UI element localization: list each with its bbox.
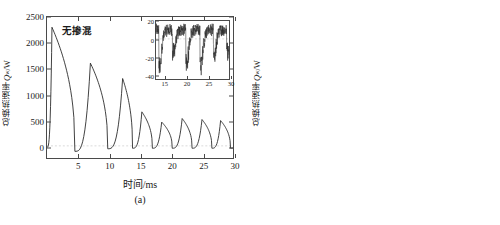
x-axis-label-a: 时间/ms — [46, 176, 234, 191]
inset-a-y-mark-m20 — [156, 57, 159, 58]
inset-a-y-tick-0: -40 — [145, 73, 154, 80]
x-tick-mark-a-3 — [172, 154, 173, 158]
y-tick-mark-a-3 — [47, 69, 51, 70]
inset-a-y-tick-1: -20 — [145, 54, 154, 61]
x-tick-mark-a-5 — [235, 154, 236, 158]
x-tick-a-1: 10 — [105, 161, 114, 171]
x-tick-a-0: 5 — [76, 161, 81, 171]
y-axis-label-b-unit: /W — [252, 60, 262, 70]
y-tick-a-4: 2000 — [26, 38, 44, 48]
inset-plot-a: 20 0 -20 -40 15 20 25 30 — [155, 20, 230, 80]
x-tick-mark-a-0-t — [78, 17, 79, 21]
y-tick-mark-a-2-r — [229, 95, 233, 96]
x-tick-mark-a-5-t — [235, 17, 236, 21]
y-tick-mark-a-5-r — [229, 17, 233, 18]
x-tick-mark-a-1 — [110, 154, 111, 158]
y-tick-mark-a-1 — [47, 121, 51, 122]
x-tick-mark-a-1-t — [110, 17, 111, 21]
inset-a-y-tick-2: 0 — [151, 36, 154, 43]
y-axis-label-b-text: 总换热速率 — [252, 81, 262, 126]
y-axis-label-a: 总换热速率Qw/W — [2, 38, 16, 148]
inset-a-y-tick-3: 20 — [148, 18, 155, 25]
y-tick-mark-a-1-r — [229, 121, 233, 122]
x-tick-a-5: 30 — [231, 161, 240, 171]
y-axis-label-a-symbol: Q — [2, 75, 12, 81]
y-tick-mark-a-5 — [47, 17, 51, 18]
inset-a-x-tick-1: 20 — [184, 80, 191, 87]
y-tick-mark-a-0 — [47, 147, 51, 148]
panel-caption-a: (a) — [46, 194, 234, 205]
y-axis-label-a-unit: /W — [2, 60, 12, 70]
inset-a-y-mark-20 — [156, 21, 159, 22]
y-tick-a-1: 500 — [31, 117, 45, 127]
y-tick-a-2: 1000 — [26, 91, 44, 101]
panel-a: 总换热速率Qw/W 0 500 1000 1500 2000 — [0, 0, 250, 225]
inset-a-x-tick-3: 30 — [228, 80, 235, 87]
inset-a-x-mark-15 — [165, 76, 166, 79]
panel-b: 总换热速率Qw/W 0 500 1000 1500 2000 — [250, 0, 500, 225]
inset-a-x-tick-2: 25 — [206, 80, 213, 87]
x-tick-a-4: 25 — [199, 161, 208, 171]
x-tick-a-3: 20 — [168, 161, 177, 171]
y-tick-mark-a-0-r — [229, 147, 233, 148]
inset-a-x-mark-25 — [209, 76, 210, 79]
y-axis-label-a-text: 总换热速率 — [2, 81, 12, 126]
x-tick-a-2: 15 — [137, 161, 146, 171]
y-axis-label-b-symbol: Q — [252, 75, 262, 81]
y-tick-mark-a-4 — [47, 43, 51, 44]
y-tick-mark-a-2 — [47, 95, 51, 96]
x-tick-mark-a-2-t — [141, 17, 142, 21]
inset-a-x-mark-30 — [231, 76, 232, 79]
y-tick-a-0: 0 — [40, 143, 45, 153]
y-axis-label-b: 总换热速率Qw/W — [252, 38, 266, 148]
y-tick-a-3: 1500 — [26, 64, 44, 74]
y-axis-label-a-subscript: w — [4, 70, 10, 74]
y-tick-a-5: 2500 — [26, 12, 44, 22]
y-axis-label-b-subscript: w — [254, 70, 260, 74]
inset-a-y-mark-m40 — [156, 76, 159, 77]
inset-a-y-mark-0 — [156, 39, 159, 40]
inset-curve-a — [156, 21, 229, 79]
annotation-no-mixing: 无掺混 — [62, 23, 92, 37]
x-tick-mark-a-4 — [204, 154, 205, 158]
inset-a-x-mark-20 — [187, 76, 188, 79]
x-tick-mark-a-2 — [141, 154, 142, 158]
figure-container: 总换热速率Qw/W 0 500 1000 1500 2000 — [0, 0, 500, 225]
inset-a-x-tick-0: 15 — [162, 80, 169, 87]
x-tick-mark-a-0 — [78, 154, 79, 158]
